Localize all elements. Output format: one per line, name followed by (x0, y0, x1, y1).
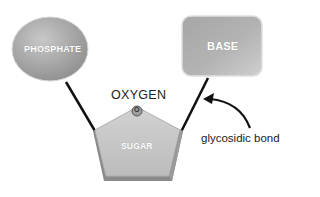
base-sugar-bond (181, 78, 208, 132)
phosphate-label: PHOSPHATE (24, 44, 81, 54)
glycosidic-bond-arrow (210, 99, 250, 128)
oxygen-label: OXYGEN (111, 88, 166, 102)
phosphate-sugar-bond (66, 82, 95, 131)
sugar-label: SUGAR (121, 141, 153, 151)
glycosidic-bond-label: glycosidic bond (201, 132, 280, 144)
oxygen-atom-label: O (134, 106, 139, 113)
arrow-head-icon (203, 93, 214, 104)
base-label: BASE (207, 40, 238, 52)
